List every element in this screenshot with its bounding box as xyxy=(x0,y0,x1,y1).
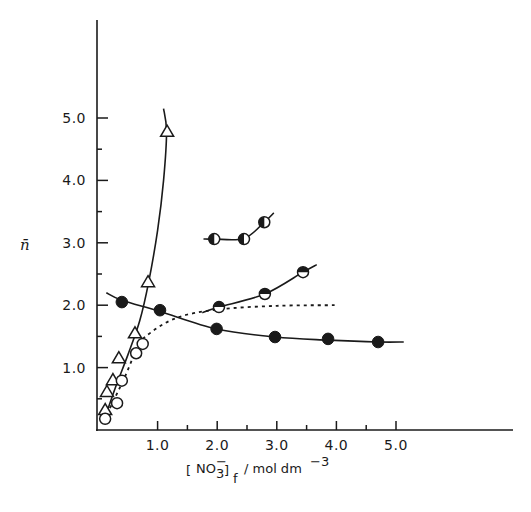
x-tick-label: 5.0 xyxy=(384,437,408,453)
open-circles-point xyxy=(112,398,123,409)
y-tick-label: 4.0 xyxy=(62,172,86,188)
open-triangles-point xyxy=(100,385,113,396)
open-triangles-point xyxy=(112,352,125,363)
x-axis-label: [ NO 3 − ] f / mol dm −3 xyxy=(186,454,329,486)
open-circles-curve xyxy=(110,305,335,408)
half-filled-circles-upper-point xyxy=(259,217,270,228)
y-axis-label: n̄ xyxy=(20,236,30,254)
chart: 1.02.03.04.05.01.02.03.04.05.0 n̄ [ NO 3… xyxy=(0,0,531,512)
x-label-units: / mol dm xyxy=(244,461,302,476)
half-filled-circles-upper-point xyxy=(209,234,220,245)
open-triangles-point xyxy=(128,327,141,338)
half-filled-circles-rising-point xyxy=(259,288,270,299)
filled-circles-curve xyxy=(106,293,403,342)
y-tick-label: 1.0 xyxy=(62,360,86,376)
x-tick-label: 3.0 xyxy=(265,437,289,453)
open-circles-point xyxy=(137,338,148,349)
open-triangles-point xyxy=(142,276,155,287)
half-filled-circles-rising-point xyxy=(298,267,309,278)
filled-circles-point xyxy=(322,333,334,345)
half-filled-circles-rising-point xyxy=(213,302,224,313)
filled-circles-point xyxy=(269,331,281,343)
x-tick-label: 2.0 xyxy=(205,437,229,453)
filled-circles-point xyxy=(154,304,166,316)
x-label-units-exp: −3 xyxy=(310,454,329,469)
open-circles-point xyxy=(100,413,111,424)
filled-circles-point xyxy=(211,323,223,335)
x-label-bracket-close: ] xyxy=(224,463,229,478)
open-circles-point xyxy=(116,375,127,386)
filled-circles-point xyxy=(372,336,384,348)
x-tick-label: 4.0 xyxy=(325,437,349,453)
y-tick-label: 5.0 xyxy=(62,110,86,126)
half-filled-circles-upper-point xyxy=(239,234,250,245)
ticks xyxy=(97,118,396,430)
curves xyxy=(104,109,404,421)
markers xyxy=(99,125,384,424)
x-label-outer-sub: f xyxy=(233,471,238,486)
filled-circles-point xyxy=(116,296,128,308)
open-triangles-point xyxy=(161,125,174,136)
x-label-species: NO xyxy=(196,461,216,476)
y-tick-label: 2.0 xyxy=(62,297,86,313)
y-tick-label: 3.0 xyxy=(62,235,86,251)
x-tick-label: 1.0 xyxy=(146,437,170,453)
x-label-bracket-open: [ xyxy=(186,463,191,478)
